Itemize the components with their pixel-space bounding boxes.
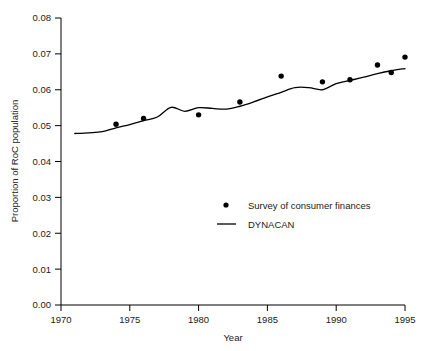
y-tick-label: 0.07: [33, 48, 52, 59]
data-point: [402, 54, 407, 59]
x-tick-label: 1975: [119, 314, 140, 325]
data-point: [278, 73, 283, 78]
chart-canvas: 0.000.010.020.030.040.050.060.070.08 Pro…: [0, 0, 426, 351]
legend-label-dynacan: DYNACAN: [248, 219, 295, 230]
y-tick-label: 0.08: [33, 12, 52, 23]
y-tick-label: 0.03: [33, 192, 52, 203]
x-tick-label: 1990: [326, 314, 347, 325]
y-tick-label: 0.02: [33, 228, 52, 239]
y-tick-label: 0.05: [33, 120, 52, 131]
x-tick-label: 1970: [50, 314, 71, 325]
y-tick-label: 0.06: [33, 84, 52, 95]
y-tick-label: 0.01: [33, 264, 52, 275]
x-tick-label: 1995: [394, 314, 415, 325]
y-tick-label: 0.04: [33, 156, 52, 167]
data-point: [389, 70, 394, 75]
x-axis: 197019751980198519901995 Year: [50, 305, 415, 343]
data-point: [320, 79, 325, 84]
data-point: [375, 62, 380, 67]
plot-area: [75, 54, 408, 133]
chart-figure: 0.000.010.020.030.040.050.060.070.08 Pro…: [0, 0, 426, 351]
legend: Survey of consumer finances DYNACAN: [217, 200, 371, 230]
data-point: [141, 116, 146, 121]
series-points-survey-of-consumer-finances: [113, 54, 407, 126]
data-point: [196, 112, 201, 117]
y-axis-ticks: [55, 18, 61, 305]
x-tick-label: 1980: [188, 314, 209, 325]
data-point: [237, 99, 242, 104]
data-point: [347, 77, 352, 82]
x-axis-title: Year: [223, 332, 242, 343]
legend-label-survey: Survey of consumer finances: [248, 200, 371, 211]
y-axis: 0.000.010.020.030.040.050.060.070.08 Pro…: [9, 12, 61, 310]
x-axis-tick-labels: 197019751980198519901995: [50, 314, 415, 325]
y-tick-label: 0.00: [33, 299, 52, 310]
legend-dot-marker-icon: [223, 202, 228, 207]
x-tick-label: 1985: [257, 314, 278, 325]
x-axis-ticks: [61, 305, 405, 311]
y-axis-tick-labels: 0.000.010.020.030.040.050.060.070.08: [33, 12, 52, 310]
data-point: [113, 121, 118, 126]
y-axis-title: Proportion of RoC population: [9, 100, 20, 223]
